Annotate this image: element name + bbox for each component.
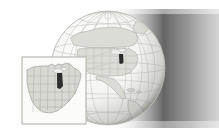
frame-bands [0, 129, 219, 137]
inset-highlighted-state-indiana [57, 73, 63, 89]
globe-illustration-svg [0, 0, 219, 137]
illustration-canvas: Faded illustration of Earth showing Nort… [0, 0, 219, 137]
